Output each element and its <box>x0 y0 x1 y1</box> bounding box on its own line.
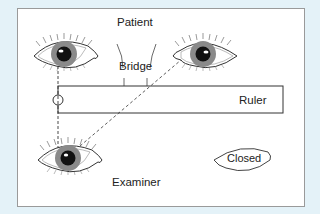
label-patient: Patient <box>117 17 153 29</box>
pupil-icon <box>196 47 211 62</box>
patient-right-eye <box>34 33 98 71</box>
label-ruler: Ruler <box>239 95 266 107</box>
pupil-icon <box>57 47 72 62</box>
pupil-icon <box>61 151 76 166</box>
label-closed: Closed <box>227 153 261 164</box>
patient-left-eye <box>173 33 237 71</box>
examiner-eye <box>38 137 102 175</box>
label-bridge: Bridge <box>119 61 152 73</box>
label-examiner: Examiner <box>112 177 161 189</box>
